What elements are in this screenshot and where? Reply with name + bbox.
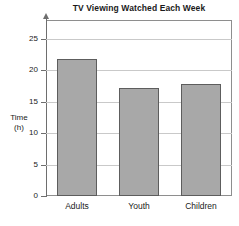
bar bbox=[181, 84, 221, 196]
y-axis-tick-mark bbox=[41, 165, 46, 166]
y-axis-line bbox=[46, 18, 47, 197]
y-axis-tick-mark bbox=[41, 39, 46, 40]
y-axis-title-unit: (h) bbox=[0, 123, 38, 133]
y-axis-tick-label: 20 bbox=[12, 66, 38, 74]
y-axis-arrow-icon bbox=[43, 13, 49, 19]
y-axis-title-name: Time bbox=[10, 113, 27, 122]
y-axis-tick-mark bbox=[41, 70, 46, 71]
x-axis-category-label: Children bbox=[161, 201, 239, 211]
y-axis-title: Time (h) bbox=[0, 113, 38, 133]
gridline bbox=[46, 39, 232, 40]
y-axis-tick-label: 0 bbox=[12, 192, 38, 200]
chart-title: TV Viewing Watched Each Week bbox=[46, 3, 232, 13]
y-axis-tick-mark bbox=[41, 196, 46, 197]
y-axis-tick-label: 5 bbox=[12, 161, 38, 169]
y-axis-tick-mark bbox=[41, 102, 46, 103]
y-axis-tick-label: 15 bbox=[12, 98, 38, 106]
bar-chart: TV Viewing Watched Each Week 0510152025 … bbox=[0, 0, 239, 226]
y-axis-tick-mark bbox=[41, 133, 46, 134]
y-axis-tick-label: 25 bbox=[12, 35, 38, 43]
bar bbox=[119, 88, 159, 196]
bar bbox=[57, 59, 97, 196]
